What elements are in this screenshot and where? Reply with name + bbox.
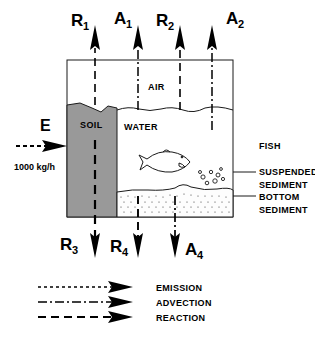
svg-text:A: A	[185, 240, 197, 259]
svg-text:R: R	[60, 235, 72, 254]
svg-text:2: 2	[168, 20, 174, 32]
label-bottom-2: SEDIMENT	[259, 205, 308, 215]
svg-text:A: A	[114, 9, 126, 28]
legend-label-emission: EMISSION	[156, 283, 202, 293]
label-fish: FISH	[259, 141, 281, 151]
label-water: WATER	[124, 122, 158, 132]
legend-label-advection: ADVECTION	[156, 298, 212, 308]
emission-symbol: E	[40, 117, 51, 134]
diagram-canvas: R 1 A 1 R 2 A 2 R 3 R 4 A 4 E 1000 kg/h …	[0, 0, 315, 342]
svg-text:R: R	[156, 11, 168, 30]
label-suspended-1: SUSPENDED	[259, 167, 315, 177]
svg-text:A: A	[226, 9, 238, 28]
svg-text:4: 4	[197, 249, 204, 261]
svg-text:3: 3	[72, 244, 78, 256]
svg-text:4: 4	[122, 246, 129, 258]
label-suspended-2: SEDIMENT	[259, 180, 308, 190]
svg-text:R: R	[71, 11, 83, 30]
svg-text:1: 1	[126, 18, 132, 30]
label-soil: SOIL	[80, 120, 103, 130]
label-bottom-1: BOTTOM	[259, 192, 300, 202]
svg-text:R: R	[110, 237, 122, 256]
svg-text:2: 2	[238, 18, 244, 30]
legend-label-reaction: REACTION	[156, 313, 205, 323]
svg-text:1: 1	[83, 20, 89, 32]
environmental-fate-diagram: R 1 A 1 R 2 A 2 R 3 R 4 A 4 E 1000 kg/h …	[0, 0, 315, 342]
emission-rate: 1000 kg/h	[14, 162, 55, 172]
label-air: AIR	[148, 82, 165, 92]
